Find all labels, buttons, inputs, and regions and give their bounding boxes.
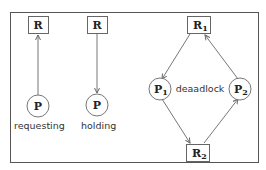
process-label: P: [34, 100, 42, 113]
edge-r2-p2-arrow: [204, 99, 238, 143]
caption-requesting: requesting: [14, 120, 65, 131]
panel-requesting: R P requesting: [14, 17, 65, 132]
resource-label: R: [33, 19, 43, 32]
edge-p1-r2-arrow: [162, 99, 190, 143]
caption-holding: holding: [81, 120, 116, 131]
panel-holding: R P holding: [81, 17, 116, 132]
caption-deadlock: deaadlock: [176, 83, 225, 94]
edge-r1-p1-arrow: [162, 34, 190, 79]
panel-deadlock: R1 P1 P2 R2 deaadlock: [149, 17, 251, 162]
process-label: P: [93, 99, 101, 112]
resource-label: R: [92, 19, 102, 32]
resource-allocation-diagram: R P requesting R P holding R1 P1 P2 R2 d…: [0, 0, 266, 170]
edge-p2-r1-arrow: [205, 35, 238, 79]
